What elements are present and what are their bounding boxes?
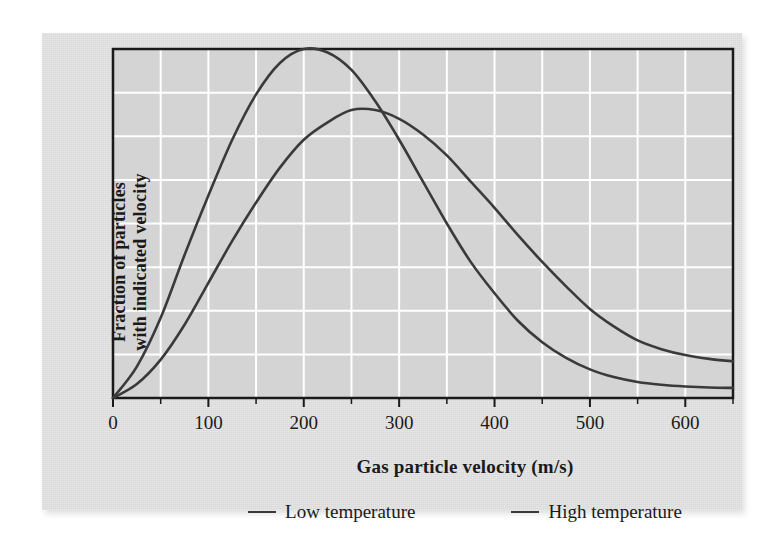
x-tick-label: 400 [465, 412, 525, 434]
chart-legend: Low temperature High temperature [155, 501, 775, 523]
figure-panel: 0100200300400500600 Gas particle velocit… [42, 33, 742, 510]
x-tick-label: 0 [83, 412, 143, 434]
legend-label: High temperature [548, 501, 681, 523]
y-axis-title-line1: Fraction of particles [109, 182, 129, 342]
x-tick-label: 100 [178, 412, 238, 434]
legend-line-icon [511, 511, 539, 513]
x-tick-label: 500 [560, 412, 620, 434]
x-axis-ticks [113, 398, 733, 407]
x-axis-title: Gas particle velocity (m/s) [155, 456, 775, 478]
legend-item-low-temperature: Low temperature [248, 501, 415, 523]
legend-item-high-temperature: High temperature [511, 501, 681, 523]
figure-page: 0100200300400500600 Gas particle velocit… [0, 0, 781, 535]
y-axis-title: Fraction of particles with indicated vel… [109, 112, 151, 412]
y-axis-title-line2: with indicated velocity [130, 173, 150, 351]
x-tick-label: 200 [274, 412, 334, 434]
legend-line-icon [248, 511, 276, 513]
legend-label: Low temperature [285, 501, 415, 523]
x-tick-label: 600 [655, 412, 715, 434]
x-tick-label: 300 [369, 412, 429, 434]
